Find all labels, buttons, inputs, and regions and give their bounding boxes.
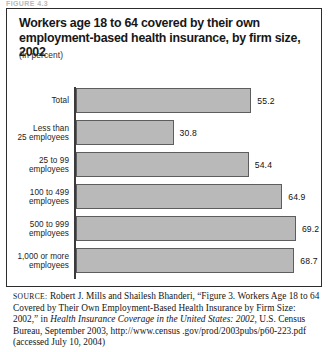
bar <box>76 152 249 177</box>
figure-box: Workers age 18 to 64 covered by their ow… <box>6 8 322 287</box>
bar-row: 1,000 or moreemployees68.7 <box>7 247 323 274</box>
bar-chart-plot-area: Total55.2Less than25 employees30.825 to … <box>7 79 323 284</box>
bar <box>76 248 295 273</box>
bar-category-label: 1,000 or moreemployees <box>7 251 69 270</box>
bar-value-label: 69.2 <box>302 224 319 234</box>
bar-category-label: 25 to 99employees <box>7 155 69 174</box>
bar-value-label: 30.8 <box>180 128 197 138</box>
bar-row: 500 to 999employees69.2 <box>7 215 323 242</box>
bar <box>76 184 283 209</box>
figure-number-cut-off: FIGURE 4.3 <box>6 0 126 7</box>
bar-row: 100 to 499employees64.9 <box>7 183 323 210</box>
bar-row: Less than25 employees30.8 <box>7 119 323 146</box>
bar-category-label: 100 to 499employees <box>7 187 69 206</box>
bar <box>76 120 174 145</box>
bar-category-label: 500 to 999employees <box>7 219 69 238</box>
bar-value-label: 68.7 <box>300 256 317 266</box>
bar <box>76 216 296 241</box>
bar-category-label: Total <box>7 96 69 105</box>
bar-value-label: 64.9 <box>288 192 305 202</box>
bar-value-label: 55.2 <box>257 96 274 106</box>
source-note: SOURCE: Robert J. Mills and Shailesh Bha… <box>13 291 321 349</box>
source-italic-title: Health Insurance Coverage in the United … <box>50 314 257 324</box>
bar-category-label: Less than25 employees <box>7 123 69 142</box>
bar <box>76 88 252 113</box>
bar-row: 25 to 99employees54.4 <box>7 151 323 178</box>
bar-row: Total55.2 <box>7 87 323 114</box>
bar-value-label: 54.4 <box>255 160 272 170</box>
chart-units-note: (In percent) <box>19 50 63 60</box>
source-label: SOURCE: <box>13 292 48 301</box>
